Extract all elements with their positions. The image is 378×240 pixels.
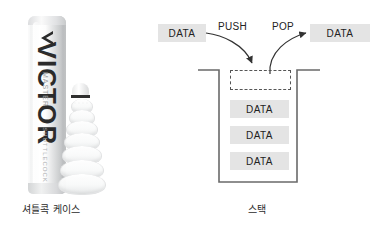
stack-item: DATA bbox=[230, 126, 289, 144]
stack-top-empty-slot bbox=[230, 70, 291, 90]
stack-item-label: DATA bbox=[246, 130, 273, 141]
output-data-chip-label: DATA bbox=[327, 28, 354, 39]
input-data-chip: DATA bbox=[158, 24, 206, 42]
input-data-chip-label: DATA bbox=[169, 28, 196, 39]
stack-item-label: DATA bbox=[246, 156, 273, 167]
stack-item: DATA bbox=[230, 152, 289, 170]
push-label: PUSH bbox=[218, 21, 247, 32]
push-arrow bbox=[206, 33, 252, 63]
stack-item: DATA bbox=[230, 100, 289, 118]
stack-caption: 스택 bbox=[248, 201, 266, 216]
stack-item-label: DATA bbox=[246, 104, 273, 115]
output-data-chip: DATA bbox=[310, 24, 370, 42]
pop-arrow bbox=[270, 33, 306, 74]
pop-label: POP bbox=[272, 21, 294, 32]
